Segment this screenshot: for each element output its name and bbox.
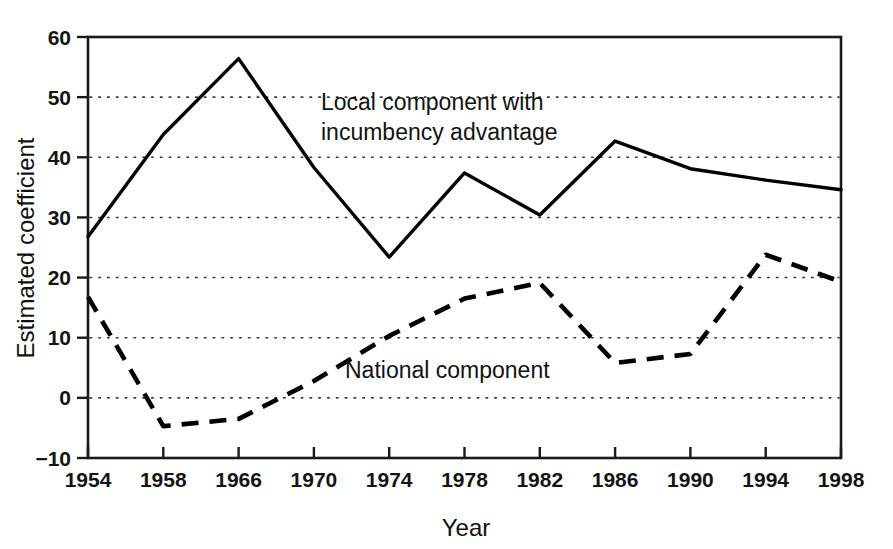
x-tick-label: 1986 xyxy=(592,468,639,491)
y-tick-label: 50 xyxy=(48,86,71,109)
x-axis-tick-labels: 1954195819661970197419781982198619901994… xyxy=(65,468,865,491)
y-tick-label: 0 xyxy=(59,386,71,409)
chart-background xyxy=(0,0,893,549)
x-tick-label: 1974 xyxy=(366,468,413,491)
x-tick-label: 1966 xyxy=(215,468,262,491)
x-tick-label: 1954 xyxy=(65,468,112,491)
x-tick-label: 1982 xyxy=(516,468,563,491)
x-tick-label: 1990 xyxy=(667,468,714,491)
y-tick-label: 40 xyxy=(48,146,71,169)
y-tick-label: 30 xyxy=(48,206,71,229)
line-chart: 6050403020100−10 19541958196619701974197… xyxy=(0,0,893,549)
y-tick-label: −10 xyxy=(35,447,71,470)
x-tick-label: 1958 xyxy=(140,468,187,491)
annotation-line: National component xyxy=(345,357,550,383)
chart-figure: 6050403020100−10 19541958196619701974197… xyxy=(0,0,893,549)
y-tick-label: 60 xyxy=(48,26,71,49)
y-axis-title: Estimated coefficient xyxy=(12,137,39,358)
x-tick-label: 1998 xyxy=(818,468,865,491)
x-axis-title: Year xyxy=(442,514,491,541)
y-tick-label: 20 xyxy=(48,266,71,289)
y-tick-label: 10 xyxy=(48,326,71,349)
annotation-line: incumbency advantage xyxy=(321,119,558,145)
x-tick-label: 1970 xyxy=(291,468,338,491)
x-tick-label: 1994 xyxy=(742,468,789,491)
annotation-national-label: National component xyxy=(345,357,550,383)
x-tick-label: 1978 xyxy=(441,468,488,491)
annotation-line: Local component with xyxy=(321,89,543,115)
